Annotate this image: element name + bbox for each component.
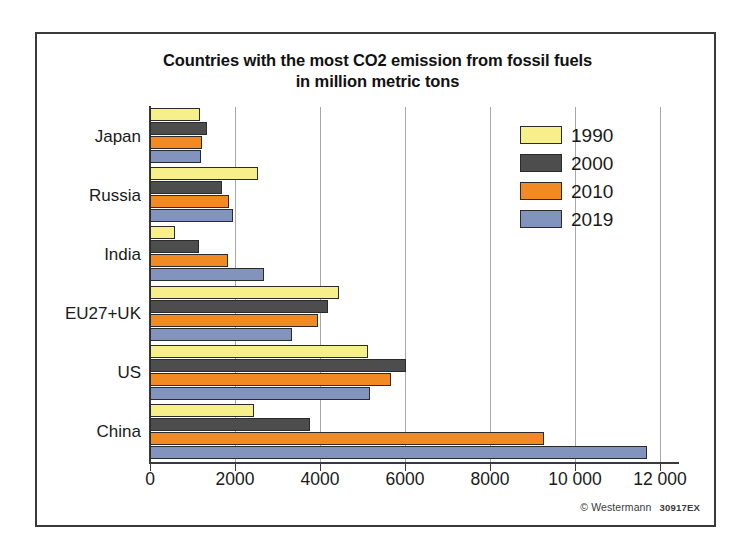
credit-code: 30917EX [660,502,701,513]
x-tick-label-0: 0 [145,471,155,489]
bar-row [150,345,660,358]
chart-title: Countries with the most CO2 emission fro… [37,50,718,92]
bar-russia-2010 [150,195,229,208]
bar-row [150,418,660,431]
legend-label-1990: 1990 [571,126,613,145]
credit-publisher: © Westermann [580,501,651,513]
x-tick-label-10000: 10 000 [548,471,602,489]
bar-china-2019 [150,446,647,459]
bar-group-us: US [150,345,660,401]
bar-russia-2019 [150,209,233,222]
bar-row [150,432,660,445]
bar-eu27-uk-2010 [150,314,318,327]
bar-china-1990 [150,404,254,417]
bar-row [150,108,660,121]
bar-row [150,387,660,400]
bar-row [150,314,660,327]
gridline-12000 [660,107,661,462]
bar-us-2019 [150,387,370,400]
legend-item-1990[interactable]: 1990 [520,125,613,145]
bar-us-2000 [150,359,406,372]
chart-legend: 1990200020102019 [520,125,613,237]
bar-china-2010 [150,432,544,445]
legend-label-2000: 2000 [571,154,613,173]
bar-row [150,240,660,253]
legend-label-2019: 2019 [571,210,613,229]
bar-india-2000 [150,240,199,253]
bar-row [150,373,660,386]
bar-india-2019 [150,268,264,281]
legend-item-2000[interactable]: 2000 [520,153,613,173]
category-label-india: India [104,246,141,263]
legend-item-2010[interactable]: 2010 [520,181,613,201]
bar-row [150,446,660,459]
bar-japan-2010 [150,136,202,149]
bar-russia-2000 [150,181,222,194]
legend-label-2010: 2010 [571,182,613,201]
bar-row [150,268,660,281]
bar-japan-2019 [150,150,201,163]
x-tick-label-12000: 12 000 [633,471,687,489]
bar-eu27-uk-2000 [150,300,328,313]
bar-row [150,254,660,267]
category-label-us: US [117,364,141,381]
x-tick-label-2000: 2000 [216,471,255,489]
credit: © Westermann30917EX [580,501,700,513]
chart-frame: Countries with the most CO2 emission fro… [35,32,716,527]
bar-india-1990 [150,226,175,239]
bar-row [150,359,660,372]
legend-swatch-2019 [520,210,562,228]
x-tick-label-6000: 6000 [386,471,425,489]
bar-india-2010 [150,254,228,267]
category-label-china: China [97,423,141,440]
legend-item-2019[interactable]: 2019 [520,209,613,229]
bar-row [150,328,660,341]
legend-swatch-1990 [520,126,562,144]
bar-us-2010 [150,373,391,386]
legend-swatch-2000 [520,154,562,172]
category-label-eu27-uk: EU27+UK [65,305,141,322]
chart-title-line-1: Countries with the most CO2 emission fro… [37,50,718,71]
bar-japan-1990 [150,108,200,121]
bar-eu27-uk-2019 [150,328,292,341]
bar-us-1990 [150,345,368,358]
category-label-russia: Russia [89,187,141,204]
bar-group-eu27-uk: EU27+UK [150,286,660,342]
bar-group-china: China [150,404,660,460]
bar-row [150,286,660,299]
x-axis-line [149,462,679,464]
category-label-japan: Japan [95,128,141,145]
bar-russia-1990 [150,167,258,180]
legend-swatch-2010 [520,182,562,200]
x-tick-label-4000: 4000 [301,471,340,489]
bar-japan-2000 [150,122,207,135]
x-tick-label-8000: 8000 [471,471,510,489]
bar-eu27-uk-1990 [150,286,339,299]
bar-china-2000 [150,418,310,431]
bar-row [150,300,660,313]
chart-title-line-2: in million metric tons [37,71,718,92]
bar-row [150,404,660,417]
